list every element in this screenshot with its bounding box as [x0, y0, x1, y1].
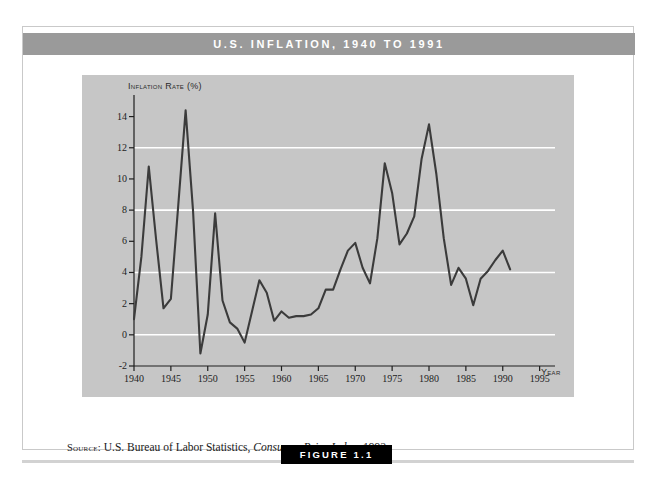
y-tick-label: 6: [105, 235, 127, 246]
x-tick-label: 1950: [191, 373, 225, 384]
x-tick-label: 1940: [117, 373, 151, 384]
figure-number-label: FIGURE 1.1: [300, 449, 374, 460]
data-line-u-s-inflation-rate: [134, 110, 510, 353]
y-tick-label: 2: [105, 298, 127, 309]
x-tick-label: 1960: [265, 373, 299, 384]
source-label: Source:: [67, 442, 101, 453]
plot-area: Inflation Rate (%) Year -202468101214194…: [82, 75, 574, 397]
figure-number-badge: FIGURE 1.1: [281, 445, 392, 464]
figure-title-bar: U.S. Inflation, 1940 to 1991: [23, 33, 635, 55]
figure-title: U.S. Inflation, 1940 to 1991: [213, 38, 444, 50]
x-tick-label: 1965: [301, 373, 335, 384]
source-body: U.S. Bureau of Labor Statistics,: [104, 441, 251, 453]
x-tick-label: 1970: [338, 373, 372, 384]
x-tick-label: 1985: [449, 373, 483, 384]
y-tick-label: 12: [105, 142, 127, 153]
x-tick-label: 1990: [486, 373, 520, 384]
figure-card: U.S. Inflation, 1940 to 1991 Inflation R…: [22, 26, 634, 450]
y-tick-label: 8: [105, 204, 127, 215]
x-tick-label: 1975: [375, 373, 409, 384]
y-tick-label: 14: [105, 111, 127, 122]
y-tick-label: 4: [105, 266, 127, 277]
x-tick-label: 1955: [228, 373, 262, 384]
line-chart-svg: [82, 75, 574, 397]
y-tick-label: -2: [105, 360, 127, 371]
x-tick-label: 1995: [523, 373, 557, 384]
x-tick-label: 1945: [154, 373, 188, 384]
x-tick-label: 1980: [412, 373, 446, 384]
y-tick-label: 10: [105, 173, 127, 184]
y-tick-label: 0: [105, 329, 127, 340]
